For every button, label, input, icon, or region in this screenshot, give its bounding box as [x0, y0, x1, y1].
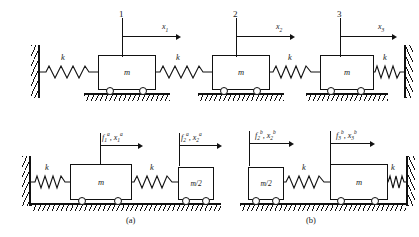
- a-pointer-2-label: f2a, x2a: [181, 131, 202, 143]
- wall-hatching: [22, 156, 29, 206]
- b-spring-2: [386, 174, 406, 190]
- b-mass-1-wheel-right: [272, 197, 280, 205]
- pointer-arrow-line: [179, 145, 217, 146]
- top-mass-3-label: m: [344, 68, 350, 77]
- coord-superscript: b: [273, 129, 276, 135]
- a-pointer-1: f1a, x1a: [100, 133, 156, 165]
- b-pointer-2-label: f3b, x3b: [336, 129, 357, 141]
- top-coordinate-1-label: x1: [162, 22, 168, 33]
- pointer-tick: [100, 133, 101, 164]
- a-left-wall: [22, 156, 31, 206]
- b-mass-1-wheel-left: [252, 197, 260, 205]
- coord-superscript: a: [199, 131, 202, 137]
- a-mass-2-label: m/2: [190, 180, 201, 188]
- force-superscript: b: [260, 129, 263, 135]
- top-coordinate-2: x2: [236, 18, 304, 58]
- coord-subscript: 2: [196, 137, 199, 143]
- force-subscript: 2: [183, 137, 186, 143]
- pointer-tick: [122, 18, 123, 57]
- top-mass-1-wheel-left: [106, 87, 114, 95]
- top-mass-3-wheel-left: [327, 87, 335, 95]
- wall-hatching: [31, 45, 38, 98]
- pointer-tick: [179, 133, 180, 166]
- pointer-arrow-head: [392, 34, 397, 40]
- pointer-arrow-line: [236, 36, 290, 37]
- coord-superscript: a: [120, 131, 123, 137]
- ground-hatching: [31, 205, 221, 211]
- coord-subscript: 3: [351, 135, 354, 141]
- a-mass-1-wheel-left: [78, 197, 86, 205]
- b-pointer-1: f2b, x2b: [249, 131, 307, 167]
- top-coordinate-1: x1: [122, 18, 190, 58]
- b-right-wall: [406, 156, 415, 206]
- top-mass-3-wheel-right: [357, 87, 365, 95]
- a-pointer-2: f2a, x2a: [179, 133, 235, 167]
- ground-hatching: [198, 95, 284, 101]
- ground-hatching: [240, 205, 406, 211]
- pointer-tick: [249, 131, 250, 166]
- a-mass-2-wheel-left: [182, 197, 190, 205]
- b-pointer-2: f3b, x3b: [330, 131, 388, 165]
- pointer-arrow-line: [249, 143, 289, 144]
- top-mass-1-wheel-right: [139, 87, 147, 95]
- pointer-arrow-line: [122, 36, 176, 37]
- b-pointer-1-label: f2b, x2b: [255, 129, 276, 141]
- coord-subscript: 1: [117, 137, 120, 143]
- coord-subscript: 2: [280, 27, 283, 33]
- mass-spring-figure: k m k m k m k: [0, 0, 419, 237]
- coord-subscript: 2: [270, 135, 273, 141]
- wall-hatching: [406, 45, 413, 98]
- pointer-tick: [330, 131, 331, 164]
- b-mass-1: m/2: [248, 167, 284, 200]
- pointer-tick: [236, 18, 237, 57]
- top-left-wall: [31, 45, 40, 98]
- wall-hatching: [408, 156, 415, 206]
- b-ground: [240, 203, 406, 211]
- top-coordinate-3-label: x3: [378, 22, 384, 33]
- top-spring-1: [40, 64, 98, 80]
- coord-subscript: 1: [166, 27, 169, 33]
- force-superscript: a: [186, 131, 189, 137]
- a-mass-2: m/2: [178, 167, 214, 200]
- a-spring-2: [130, 174, 178, 190]
- coord-subscript: 3: [382, 27, 385, 33]
- caption-b: (b): [306, 215, 316, 225]
- top-spring-1-label: k: [61, 52, 65, 62]
- pointer-arrow-head: [289, 141, 294, 147]
- pointer-arrow-head: [138, 143, 143, 149]
- top-mass-2-wheel-right: [253, 87, 261, 95]
- top-mass-1: m: [98, 55, 156, 90]
- top-spring-4: [372, 64, 404, 80]
- caption-a: (a): [126, 215, 135, 225]
- pointer-arrow-head: [217, 143, 222, 149]
- ground-hatching: [306, 95, 388, 101]
- a-mass-1: m: [70, 164, 132, 200]
- b-mass-2: m: [330, 164, 388, 200]
- pointer-arrow-line: [340, 36, 392, 37]
- force-subscript: 3: [338, 135, 341, 141]
- a-pointer-1-label: f1a, x1a: [102, 131, 123, 143]
- top-mass-2-label: m: [238, 68, 244, 77]
- pointer-arrow-head: [290, 34, 295, 40]
- coord-superscript: b: [354, 129, 357, 135]
- top-ground-3: [306, 93, 388, 101]
- b-mass-2-wheel-right: [371, 197, 379, 205]
- pointer-arrow-head: [176, 34, 181, 40]
- b-mass-1-label: m/2: [260, 180, 271, 188]
- pointer-tick: [340, 18, 341, 57]
- pointer-arrow-line: [100, 145, 138, 146]
- pointer-arrow-head: [370, 141, 375, 147]
- b-mass-2-wheel-left: [337, 197, 345, 205]
- top-spring-2: [154, 64, 212, 80]
- top-ground-2: [198, 93, 284, 101]
- a-mass-1-wheel-right: [114, 197, 122, 205]
- top-mass-1-label: m: [124, 68, 130, 77]
- top-ground-1: [84, 93, 170, 101]
- ground-hatching: [84, 95, 170, 101]
- top-coordinate-3: x3: [340, 18, 406, 58]
- b-mass-2-label: m: [356, 178, 362, 187]
- force-superscript: a: [107, 131, 110, 137]
- a-spring-1-label: k: [45, 162, 49, 172]
- pointer-arrow-line: [330, 143, 370, 144]
- a-spring-1: [31, 174, 70, 190]
